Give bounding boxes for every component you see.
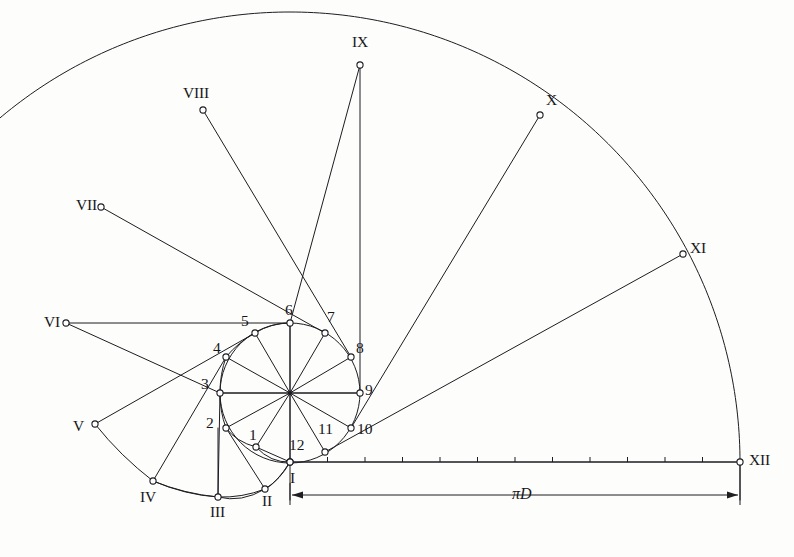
point-markers — [63, 62, 743, 500]
inner-point-marker — [253, 444, 259, 450]
radius-spoke — [290, 333, 325, 393]
outer-point-marker — [200, 107, 206, 113]
extension-to-ix — [290, 65, 360, 323]
inner-point-label: 6 — [285, 302, 293, 318]
inner-point-marker — [348, 425, 354, 431]
diameter-symbol: D — [520, 485, 532, 502]
construction-lines — [66, 65, 740, 500]
outer-point-marker — [98, 204, 104, 210]
outer-point-marker — [537, 112, 543, 118]
involute-diagram — [0, 0, 794, 557]
baseline-ticks — [328, 457, 703, 462]
outer-point-label: III — [210, 504, 225, 520]
inner-point-label: 10 — [357, 421, 373, 437]
outer-point-label: VII — [76, 197, 97, 213]
inner-point-marker — [357, 390, 363, 396]
inner-point-label: 4 — [213, 340, 221, 356]
outer-point-label: IX — [352, 34, 368, 50]
tangent-chord — [153, 357, 226, 481]
extension-to-vi — [66, 323, 220, 393]
roll-arc — [153, 481, 218, 497]
roll-arc — [95, 424, 153, 481]
outer-point-label: I — [290, 470, 295, 486]
radius-spoke — [255, 333, 290, 393]
outer-point-marker — [737, 459, 743, 465]
inner-point-marker — [223, 354, 229, 360]
radius-spoke — [290, 357, 351, 393]
outer-point-label: X — [546, 92, 557, 108]
inner-point-marker — [217, 390, 223, 396]
inner-point-label: 5 — [241, 313, 249, 329]
outer-point-label: XII — [749, 452, 770, 468]
outer-point-label: V — [73, 418, 84, 434]
inner-point-marker — [223, 425, 229, 431]
inner-point-label: 9 — [365, 382, 373, 398]
circle-centre-marker — [288, 391, 291, 394]
tangent-chord — [325, 254, 683, 452]
inner-point-label: 3 — [201, 376, 209, 392]
outer-point-label: II — [262, 493, 272, 509]
outer-point-marker — [357, 62, 363, 68]
radius-spoke — [226, 357, 290, 393]
outer-point-marker — [63, 320, 69, 326]
pi-symbol: π — [512, 485, 520, 502]
inner-point-label: 12 — [289, 437, 305, 453]
inner-point-label: 7 — [327, 309, 335, 325]
outer-point-label: IV — [140, 489, 156, 505]
outer-point-label: XI — [690, 240, 706, 256]
dimension-arrowhead-right — [727, 491, 738, 498]
radius-spoke — [226, 393, 290, 428]
tangent-chord — [351, 115, 540, 428]
dimension-label: πD — [512, 486, 532, 502]
outer-point-label: VI — [44, 314, 60, 330]
inner-point-marker — [252, 330, 258, 336]
outer-point-marker — [150, 478, 156, 484]
outer-point-marker — [287, 459, 293, 465]
outer-point-label: VIII — [183, 85, 209, 101]
inner-point-label: 1 — [249, 427, 257, 443]
dimension-arrowhead-left — [292, 491, 303, 498]
inner-point-label: 2 — [206, 415, 214, 431]
tangent-chord — [226, 428, 265, 489]
inner-point-label: 8 — [356, 340, 364, 356]
roll-arc — [265, 462, 290, 489]
outer-point-marker — [92, 421, 98, 427]
inner-point-marker — [322, 449, 328, 455]
outer-point-marker — [680, 251, 686, 257]
outer-point-marker — [215, 494, 221, 500]
inner-point-marker — [322, 330, 328, 336]
inner-point-label: 11 — [318, 421, 333, 437]
radius-spoke — [256, 393, 290, 447]
inner-point-marker — [348, 354, 354, 360]
inner-point-marker — [287, 320, 293, 326]
figure-canvas: 123456789101112IIIIIIIVVVIVIIVIIIIXXXIXI… — [0, 0, 794, 557]
tangent-chord — [256, 447, 290, 462]
